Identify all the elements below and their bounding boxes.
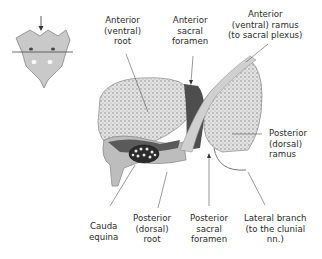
cross-section xyxy=(98,56,262,186)
inset-sacrum xyxy=(12,16,73,88)
label-line: sacral xyxy=(172,26,208,37)
label-posterior-ramus: Posterior (dorsal) ramus xyxy=(269,128,307,160)
label-line: foramen xyxy=(172,36,208,47)
label-lateral-branch: Lateral branch (to the clunial nn.) xyxy=(244,213,307,245)
label-posterior-root: Posterior (dorsal) root xyxy=(133,213,171,245)
label-line: nn.) xyxy=(244,234,307,245)
label-anterior-ramus: Anterior (ventral) ramus (to sacral plex… xyxy=(228,9,302,41)
label-line: Anterior xyxy=(228,9,302,20)
label-line: foramen xyxy=(190,234,228,245)
label-line: root xyxy=(104,36,141,47)
label-line: (to sacral plexus) xyxy=(228,30,302,41)
label-line: (dorsal) xyxy=(269,139,307,150)
label-line: (dorsal) xyxy=(133,224,171,235)
label-line: root xyxy=(133,234,171,245)
label-line: (to the clunial xyxy=(244,224,307,235)
label-line: (ventral) xyxy=(104,26,141,37)
label-line: (ventral) ramus xyxy=(228,20,302,31)
label-line: ramus xyxy=(269,149,307,160)
label-line: Posterior xyxy=(269,128,307,139)
label-line: Anterior xyxy=(172,15,208,26)
label-line: Posterior xyxy=(190,213,228,224)
label-cauda-equina: Cauda equina xyxy=(89,221,118,242)
label-line: Posterior xyxy=(133,213,171,224)
label-line: Lateral branch xyxy=(244,213,307,224)
label-line: Cauda xyxy=(89,221,118,232)
label-anterior-root: Anterior (ventral) root xyxy=(104,15,141,47)
label-line: sacral xyxy=(190,224,228,235)
label-line: Anterior xyxy=(104,15,141,26)
label-line: equina xyxy=(89,232,118,243)
label-anterior-sacral-foramen: Anterior sacral foramen xyxy=(172,15,208,47)
label-posterior-sacral-foramen: Posterior sacral foramen xyxy=(190,213,228,245)
